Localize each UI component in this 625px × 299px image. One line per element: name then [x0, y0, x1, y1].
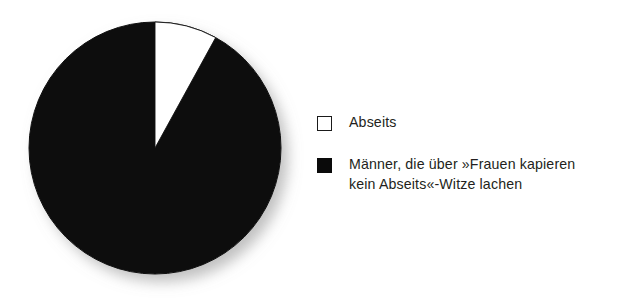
legend-label-maenner: Männer, die über »Frauen kapieren kein A… — [349, 154, 575, 194]
chart-legend: Abseits Männer, die über »Frauen kapiere… — [316, 112, 616, 214]
pie-chart — [0, 0, 310, 299]
white-square-swatch — [316, 115, 335, 134]
infographic-page: Abseits Männer, die über »Frauen kapiere… — [0, 0, 625, 299]
legend-label-abseits: Abseits — [349, 112, 397, 132]
legend-item-maenner[interactable]: Männer, die über »Frauen kapieren kein A… — [316, 154, 616, 194]
legend-item-abseits[interactable]: Abseits — [316, 112, 616, 134]
swatch-fill — [317, 158, 332, 173]
swatch-fill — [317, 116, 332, 131]
pie-chart-area — [0, 0, 310, 299]
black-square-swatch — [316, 157, 335, 176]
